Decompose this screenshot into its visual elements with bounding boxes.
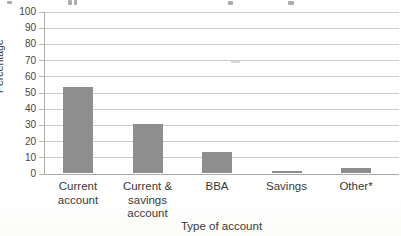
plot-area [44, 12, 399, 174]
y-tick-label-0: 0 [6, 169, 36, 179]
gridline-90 [44, 28, 399, 29]
gridline-60 [44, 76, 399, 77]
gridline-100 [44, 12, 399, 13]
x-category-label-other-: Other* [310, 180, 401, 194]
y-tick-mark [39, 174, 44, 175]
y-tick-mark [39, 76, 44, 77]
gridline-30 [44, 125, 399, 126]
gridline-0 [44, 174, 399, 175]
x-axis-title: Type of account [44, 220, 399, 232]
bar-savings [272, 171, 302, 173]
y-tick-mark [39, 157, 44, 158]
y-tick-label-60: 60 [6, 72, 36, 82]
y-tick-label-50: 50 [6, 88, 36, 98]
cropped-caption-remnant [74, 0, 77, 5]
x-category-label-line: Other* [310, 180, 401, 194]
y-tick-label-20: 20 [6, 137, 36, 147]
y-tick-mark [39, 60, 44, 61]
x-category-label-line: savings [102, 194, 194, 208]
gridline-20 [44, 141, 399, 142]
y-tick-mark [39, 125, 44, 126]
y-tick-label-70: 70 [6, 56, 36, 66]
y-tick-label-30: 30 [6, 120, 36, 130]
bar-other- [341, 168, 371, 173]
gridline-50 [44, 93, 399, 94]
y-tick-label-40: 40 [6, 104, 36, 114]
y-tick-mark [39, 12, 44, 13]
y-tick-label-100: 100 [6, 7, 36, 17]
cropped-caption-remnant [288, 1, 294, 5]
cropped-caption-remnant [7, 1, 12, 4]
y-tick-mark [39, 93, 44, 94]
gridline-80 [44, 44, 399, 45]
cropped-caption-remnant [68, 0, 72, 5]
cropped-caption-remnant [228, 1, 233, 5]
x-category-label-line: account [102, 207, 194, 221]
y-tick-label-10: 10 [6, 153, 36, 163]
gridline-70 [44, 60, 399, 61]
y-tick-mark [39, 109, 44, 110]
y-tick-mark [39, 28, 44, 29]
y-tick-label-80: 80 [6, 39, 36, 49]
y-tick-mark [39, 141, 44, 142]
y-tick-label-90: 90 [6, 23, 36, 33]
bar-current-account [63, 87, 93, 173]
y-axis-title: Percentage [0, 39, 5, 93]
gridline-40 [44, 109, 399, 110]
bar-chart-figure: Percentage 0102030405060708090100 Curren… [0, 0, 401, 236]
y-axis-line [44, 12, 45, 174]
bar-current-savings-account [133, 124, 163, 173]
bar-bba [202, 152, 232, 173]
y-tick-mark [39, 44, 44, 45]
